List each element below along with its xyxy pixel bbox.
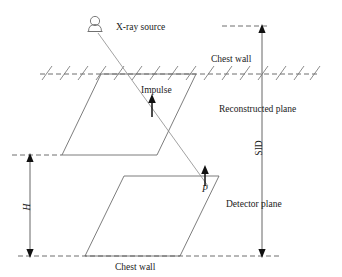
chest-wall-top-label: Chest wall [211, 54, 252, 64]
chest-wall-top-line-group [40, 66, 320, 80]
xray-geometry-diagram: X-ray source Chest wall Impulse Reconstr… [0, 0, 342, 277]
point-p-label: P [201, 184, 208, 194]
reconstructed-plane-label: Reconstructed plane [219, 104, 296, 114]
impulse-arrow-icon [148, 94, 156, 117]
hatch-marks-icon [42, 66, 320, 80]
impulse-label: Impulse [141, 85, 172, 95]
chest-wall-bottom-label: Chest wall [115, 262, 156, 272]
sid-label: SID [254, 140, 264, 155]
detector-plane-shape [85, 176, 219, 256]
diagram-canvas: X-ray source Chest wall Impulse Reconstr… [0, 0, 342, 277]
detector-plane-label: Detector plane [226, 199, 282, 209]
reconstructed-plane-shape [62, 74, 196, 155]
xray-beam-line [98, 33, 208, 186]
height-label: H [22, 202, 32, 211]
point-p-arrow-icon [201, 165, 209, 186]
xray-source-label: X-ray source [116, 22, 165, 32]
height-dimension-icon [12, 153, 62, 258]
xray-source-icon [88, 16, 103, 31]
